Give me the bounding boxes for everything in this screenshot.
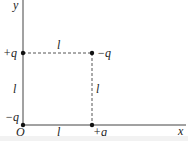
charge-point-top-right [90, 51, 94, 55]
bottom-margin [0, 136, 188, 141]
charge-label-top-left: +q [3, 46, 17, 60]
charge-label-origin: −q [5, 110, 19, 124]
side-label-right: l [96, 82, 100, 96]
y-axis-label: y [12, 0, 19, 12]
side-label-left: l [13, 82, 17, 96]
side-label-top: l [57, 38, 61, 52]
charge-label-top-right: −q [97, 46, 111, 60]
diagram-svg: y x O +q −q +q −q l l l l [0, 0, 188, 141]
charge-square-diagram: y x O +q −q +q −q l l l l [0, 0, 188, 141]
charge-point-top-left [21, 51, 25, 55]
